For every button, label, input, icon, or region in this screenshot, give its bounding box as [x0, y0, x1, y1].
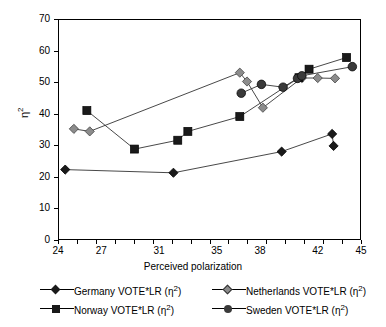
legend-label: Norway VOTE*LR (η2)	[74, 303, 174, 316]
legend-item[interactable]: Sweden VOTE*LR (η2)	[212, 303, 370, 316]
legend-symbol	[223, 285, 233, 295]
legend-symbol	[224, 305, 232, 313]
series-2	[83, 54, 351, 154]
data-point-square-filled	[184, 127, 192, 135]
legend-marker-circle-filled	[212, 303, 246, 315]
data-point-circle-filled	[298, 72, 307, 81]
legend-symbol	[51, 285, 61, 295]
data-point-diamond-filled	[169, 168, 178, 177]
legend-item[interactable]: Germany VOTE*LR (η2)	[40, 284, 212, 297]
y-axis-title-text: η	[18, 112, 30, 118]
legend-label-exponent: 2	[341, 303, 345, 312]
data-point-square-filled	[83, 107, 91, 115]
data-point-square-filled	[130, 145, 138, 153]
data-point-circle-filled	[237, 89, 246, 98]
data-point-square-filled	[343, 54, 351, 62]
data-point-diamond-filled	[61, 165, 70, 174]
series-line	[65, 134, 333, 173]
legend-item[interactable]: Netherlands VOTE*LR (η2)	[212, 284, 370, 297]
legend-label: Netherlands VOTE*LR (η2)	[246, 284, 366, 297]
chart-figure: 706050403020100 24273135384245 Perceived…	[0, 0, 386, 327]
legend-label: Sweden VOTE*LR (η2)	[246, 303, 348, 316]
legend-label-exponent: 2	[358, 284, 362, 293]
series-3	[237, 62, 357, 97]
legend-label-exponent: 2	[166, 303, 170, 312]
legend-row: Norway VOTE*LR (η2)Sweden VOTE*LR (η2)	[40, 300, 370, 319]
chart-legend: Germany VOTE*LR (η2)Netherlands VOTE*LR …	[40, 281, 370, 319]
legend-symbol	[52, 305, 60, 313]
data-point-diamond-open	[313, 73, 322, 82]
data-series-layer	[0, 0, 386, 327]
data-point-square-filled	[305, 65, 313, 73]
legend-marker-square-filled	[40, 303, 74, 315]
data-point-diamond-open	[69, 124, 78, 133]
legend-marker-diamond-filled	[40, 284, 74, 296]
series-0	[61, 129, 339, 177]
legend-row: Germany VOTE*LR (η2)Netherlands VOTE*LR …	[40, 281, 370, 300]
data-point-diamond-filled	[329, 141, 338, 150]
legend-label: Germany VOTE*LR (η2)	[74, 284, 181, 297]
data-point-diamond-open	[258, 103, 267, 112]
x-axis-title: Perceived polarization	[0, 261, 386, 272]
data-point-diamond-filled	[277, 147, 286, 156]
legend-item[interactable]: Norway VOTE*LR (η2)	[40, 303, 212, 316]
data-point-circle-filled	[348, 62, 357, 71]
legend-label-exponent: 2	[173, 284, 177, 293]
data-point-circle-filled	[257, 80, 266, 89]
data-point-square-filled	[236, 113, 244, 121]
data-point-diamond-open	[330, 74, 339, 83]
data-point-circle-filled	[279, 83, 288, 92]
legend-marker-diamond-open	[212, 284, 246, 296]
y-axis-title-exponent: 2	[16, 107, 25, 111]
data-point-diamond-filled	[328, 129, 337, 138]
data-point-diamond-open	[85, 127, 94, 136]
data-point-square-filled	[174, 136, 182, 144]
data-point-diamond-open	[235, 68, 244, 77]
y-axis-title: η2	[16, 107, 30, 118]
